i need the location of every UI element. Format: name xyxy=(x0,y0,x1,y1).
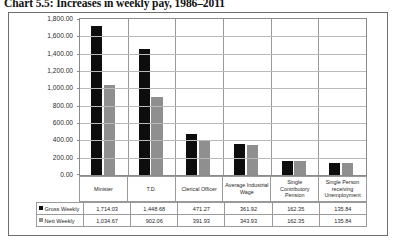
plot-wrap: 1,800.001,600.001,400.001,200.001,000.00… xyxy=(9,13,389,183)
y-axis-labels: 1,800.001,600.001,400.001,200.001,000.00… xyxy=(9,18,75,176)
category-label-1: Minister xyxy=(79,176,127,202)
bar-gross-weekly xyxy=(234,144,245,175)
table-cell: 343.93 xyxy=(225,215,272,227)
table-cell: 162.35 xyxy=(272,203,319,215)
category-separator xyxy=(175,19,176,175)
y-axis-tick-label: 1,600.00 xyxy=(47,32,73,39)
gridline xyxy=(80,106,366,107)
category-label-2: T.D. xyxy=(127,176,175,202)
gridline xyxy=(80,140,366,141)
category-label-3: Clerical Officer xyxy=(175,176,223,202)
y-axis-tick-label: 0.00 xyxy=(60,171,73,178)
gridline xyxy=(80,158,366,159)
page-title: Chart 5.5: Increases in weekly pay, 1986… xyxy=(4,0,225,9)
table-cell: 1,714.03 xyxy=(84,203,131,215)
bar-group xyxy=(80,19,128,175)
y-axis-tick-label: 600.00 xyxy=(53,119,73,126)
table-cell: 361.92 xyxy=(225,203,272,215)
bar-group xyxy=(271,19,319,175)
gridline xyxy=(80,71,366,72)
y-axis-tick-label: 400.00 xyxy=(53,136,73,143)
y-axis-tick xyxy=(77,19,80,20)
bars-layer xyxy=(80,19,366,175)
gridline xyxy=(80,88,366,89)
table-cell: 135.84 xyxy=(319,203,366,215)
category-label-6: Single Person receiving Unemployment xyxy=(318,176,367,202)
data-table: Gross Weekly1,714.031,448.68471.27361.92… xyxy=(36,202,367,227)
y-axis-tick xyxy=(77,174,80,175)
category-label-5: Single Contributory Pension xyxy=(270,176,318,202)
table-cell: 391.93 xyxy=(178,215,225,227)
y-axis-tick-label: 1,400.00 xyxy=(47,49,73,56)
gridline xyxy=(80,54,366,55)
table-cell: 1,448.68 xyxy=(131,203,178,215)
legend-swatch-icon xyxy=(39,218,43,222)
category-separator xyxy=(271,19,272,175)
gridline xyxy=(80,123,366,124)
bar-nett-weekly xyxy=(294,161,305,175)
y-axis-tick xyxy=(77,140,80,141)
bar-nett-weekly xyxy=(247,145,258,175)
bar-nett-weekly xyxy=(104,85,115,175)
y-axis-tick-label: 800.00 xyxy=(53,101,73,108)
y-axis-tick xyxy=(77,88,80,89)
bar-gross-weekly xyxy=(282,161,293,175)
legend-swatch-icon xyxy=(39,206,43,210)
data-table-body: Gross Weekly1,714.031,448.68471.27361.92… xyxy=(37,203,367,227)
bar-gross-weekly xyxy=(139,49,150,175)
category-separator xyxy=(318,19,319,175)
y-axis-tick xyxy=(77,36,80,37)
bar-nett-weekly xyxy=(342,163,353,175)
legend-label: Nett Weekly xyxy=(45,218,75,224)
legend-label: Gross Weekly xyxy=(45,206,80,212)
category-separator xyxy=(223,19,224,175)
plot-area xyxy=(79,18,367,176)
bar-group xyxy=(128,19,176,175)
chart-page: Chart 5.5: Increases in weekly pay, 1986… xyxy=(0,0,396,242)
gridline xyxy=(80,36,366,37)
table-row: Gross Weekly1,714.031,448.68471.27361.92… xyxy=(37,203,367,215)
bar-gross-weekly xyxy=(91,26,102,175)
table-cell: 471.27 xyxy=(178,203,225,215)
y-axis-tick xyxy=(77,123,80,124)
legend-entry: Nett Weekly xyxy=(37,215,84,227)
legend-entry: Gross Weekly xyxy=(37,203,84,215)
y-axis-tick-label: 1,000.00 xyxy=(47,84,73,91)
table-row: Nett Weekly1,034.67902.06391.93343.93162… xyxy=(37,215,367,227)
category-axis-labels: MinisterT.D.Clerical OfficerAverage Indu… xyxy=(79,176,367,202)
y-axis-tick-label: 200.00 xyxy=(53,153,73,160)
bar-nett-weekly xyxy=(151,97,162,175)
bar-group xyxy=(175,19,223,175)
y-axis-tick xyxy=(77,158,80,159)
table-cell: 135.84 xyxy=(319,215,366,227)
y-axis-tick-label: 1,800.00 xyxy=(47,15,73,22)
table-cell: 902.06 xyxy=(131,215,178,227)
table-cell: 162.35 xyxy=(272,215,319,227)
y-axis-tick xyxy=(77,71,80,72)
category-separator xyxy=(128,19,129,175)
bar-group xyxy=(223,19,271,175)
y-axis-tick xyxy=(77,106,80,107)
table-cell: 1,034.67 xyxy=(84,215,131,227)
y-axis-tick xyxy=(77,54,80,55)
category-label-4: Average Industrial Wage xyxy=(222,176,270,202)
figure-frame: 1,800.001,600.001,400.001,200.001,000.00… xyxy=(8,12,388,236)
y-axis-tick-label: 1,200.00 xyxy=(47,67,73,74)
bar-gross-weekly xyxy=(329,163,340,175)
bar-group xyxy=(318,19,366,175)
